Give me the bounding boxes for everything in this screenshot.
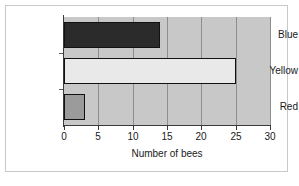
x-tick-mark-20 (201, 126, 202, 130)
bar-blue (64, 22, 160, 48)
y-tick-mark-2 (59, 89, 63, 90)
bar-yellow (64, 58, 236, 84)
y-tick-label-red: Red (242, 101, 298, 112)
x-tick-mark-0 (64, 126, 65, 130)
x-tick-label-30: 30 (255, 131, 285, 142)
y-tick-mark-1 (59, 53, 63, 54)
x-tick-label-15: 15 (152, 131, 182, 142)
bar-red (64, 94, 85, 120)
x-tick-mark-30 (270, 126, 271, 130)
gridline-x-25 (236, 17, 237, 125)
x-tick-mark-15 (167, 126, 168, 130)
x-tick-label-0: 0 (49, 131, 79, 142)
y-tick-label-blue: Blue (242, 29, 298, 40)
x-tick-label-10: 10 (118, 131, 148, 142)
x-tick-mark-25 (236, 126, 237, 130)
bar-chart-figure: Number of bees 051015202530BlueYellowRed (0, 0, 298, 186)
y-tick-label-yellow: Yellow (242, 65, 298, 76)
x-tick-label-20: 20 (186, 131, 216, 142)
x-tick-label-5: 5 (83, 131, 113, 142)
x-tick-mark-10 (133, 126, 134, 130)
x-axis-title: Number of bees (64, 148, 270, 160)
x-tick-mark-5 (98, 126, 99, 130)
x-tick-label-25: 25 (221, 131, 251, 142)
